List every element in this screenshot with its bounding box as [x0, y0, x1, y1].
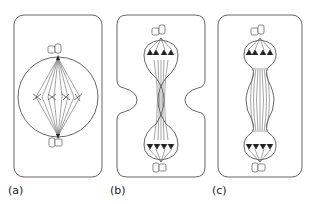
centriole-top-b-icon	[152, 25, 165, 35]
chromosomes-top-b	[147, 50, 174, 55]
pole-top-a	[56, 55, 60, 60]
chromosomes-bottom-c	[246, 144, 273, 149]
spindle-fibers-a	[36, 58, 80, 136]
spindle-fibers-c	[248, 38, 271, 162]
nuclear-region-a	[18, 57, 98, 137]
panel-label-a: (a)	[8, 184, 23, 197]
chromosomes-bottom-b	[147, 144, 174, 149]
chromosomes-top-c	[246, 50, 273, 55]
panel-b	[117, 15, 205, 177]
cell-membrane-a	[14, 15, 102, 177]
panel-label-c: (c)	[212, 184, 227, 197]
centriole-top-a-icon	[48, 44, 61, 53]
chromosomes-a	[33, 94, 82, 101]
pole-bottom-a	[56, 134, 60, 139]
panel-label-b: (b)	[110, 184, 126, 197]
panel-a	[14, 15, 102, 177]
spindle-fibers-b	[149, 38, 172, 162]
centriole-top-c-icon	[251, 25, 264, 35]
centriole-bottom-c-icon	[252, 163, 265, 172]
panel-c	[218, 15, 302, 177]
centriole-bottom-a-icon	[49, 138, 62, 147]
mitosis-diagram: (a)	[0, 0, 316, 204]
centriole-bottom-b-icon	[153, 163, 166, 172]
